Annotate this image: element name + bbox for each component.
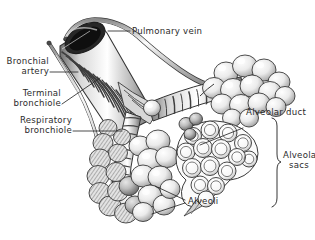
label-alveolar-sacs-line1: Alveolar — [283, 150, 315, 160]
label-terminal-bronchiole-line2: bronchiole — [0, 98, 61, 108]
label-bronchial-artery: Bronchial artery — [0, 56, 49, 77]
label-respiratory-bronchiole-line2: bronchiole — [0, 125, 72, 135]
anatomical-illustration: Pulmonary vein Bronchial artery Terminal… — [0, 0, 315, 240]
label-respiratory-bronchiole-line1: Respiratory — [0, 115, 72, 125]
label-respiratory-bronchiole: Respiratory bronchiole — [0, 115, 72, 136]
label-alveoli-text: Alveoli — [188, 196, 218, 206]
label-terminal-bronchiole-line1: Terminal — [0, 88, 61, 98]
label-pulmonary-vein: Pulmonary vein — [132, 26, 202, 36]
label-alveolar-sacs: Alveolar sacs — [283, 150, 315, 171]
label-terminal-bronchiole: Terminal bronchiole — [0, 88, 61, 109]
label-alveolar-sacs-line2: sacs — [283, 160, 315, 170]
label-alveolar-duct: Alveolar duct — [246, 107, 306, 117]
label-alveoli: Alveoli — [188, 196, 218, 206]
alveolar-sacs-brace — [272, 118, 281, 207]
label-bronchial-artery-line2: artery — [0, 66, 49, 76]
alveoli-cluster-centre — [129, 130, 180, 222]
label-pulmonary-vein-text: Pulmonary vein — [132, 26, 202, 36]
label-bronchial-artery-line1: Bronchial — [0, 56, 49, 66]
label-alveolar-duct-text: Alveolar duct — [246, 107, 306, 117]
